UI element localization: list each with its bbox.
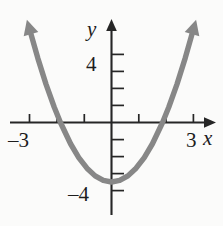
- y-tick-label-minus-4: –4: [68, 184, 89, 205]
- x-axis-label: x: [203, 128, 212, 149]
- curve-left-arrow-icon: [24, 20, 39, 37]
- y-axis-label: y: [87, 19, 96, 40]
- x-tick-label-3: 3: [186, 130, 197, 151]
- parabola-figure: y x 4 –4 –3 3: [0, 0, 223, 226]
- y-tick-label-4: 4: [86, 54, 97, 75]
- x-tick-label-minus-3: –3: [8, 130, 29, 151]
- y-axis-arrow-icon: [106, 19, 117, 31]
- plot-canvas: [0, 0, 223, 226]
- curve-right-arrow-icon: [185, 20, 200, 37]
